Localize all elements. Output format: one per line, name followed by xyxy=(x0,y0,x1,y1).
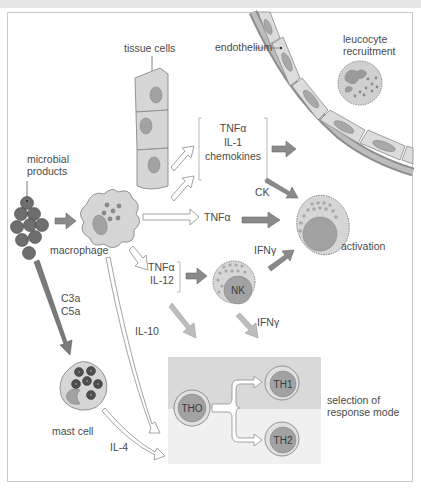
th2-label: TH2 xyxy=(274,435,293,446)
arrow-tnfa-il12-to-nk xyxy=(186,268,207,284)
th1-label: TH1 xyxy=(274,379,293,390)
ifng-selection-label: IFNγ xyxy=(257,316,280,328)
cytokine-tnfa: TNFα xyxy=(220,122,246,134)
cytokine-il1: IL-1 xyxy=(224,136,242,148)
c5a-label: C5a xyxy=(61,305,80,317)
arrow-ck xyxy=(265,178,298,198)
selection-label-line2: response mode xyxy=(327,406,400,418)
leucocyte-label-line1: leucocyte xyxy=(343,33,388,45)
macrophage-cell xyxy=(80,189,139,247)
tnfa-il12-label-line2: IL-12 xyxy=(150,274,174,286)
tnfa-il12-label-line1: TNFα xyxy=(148,261,174,273)
ifng-activation-label: IFNγ xyxy=(254,244,277,256)
leucocyte-cell xyxy=(338,61,382,105)
tissue-cells-label: tissue cells xyxy=(124,42,175,54)
macrophage-label: macrophage xyxy=(50,244,109,256)
cytokine-chemokines: chemokines xyxy=(205,150,261,162)
arrow-macrophage-to-tnfa-il12 xyxy=(129,246,148,270)
activation-label: activation xyxy=(341,240,386,252)
il4-label: IL-4 xyxy=(110,441,128,453)
arrow-macrophage-to-tissue-2 xyxy=(171,176,194,201)
th0-label: THO xyxy=(181,403,202,414)
arrow-tnfa-il12-to-selection xyxy=(169,303,196,338)
leucocyte-label-line2: recruitment xyxy=(343,45,396,57)
microbial-label-line2: products xyxy=(27,165,67,177)
arrow-macrophage-tnfa xyxy=(143,209,199,225)
arrow-tnfa-to-activation xyxy=(242,212,280,228)
mast-cell-label: mast cell xyxy=(52,425,93,437)
nk-cell xyxy=(213,261,255,304)
arrow-macrophage-to-tissue-1 xyxy=(171,146,194,171)
arrow-microbes-to-macrophage xyxy=(55,213,76,229)
selection-label-line1: selection of xyxy=(327,394,380,406)
il10-label: IL-10 xyxy=(135,325,159,337)
arrow-cytokines-to-endothelium xyxy=(272,141,296,157)
tnfa-label: TNFα xyxy=(204,211,230,223)
microbial-label-line1: microbial xyxy=(27,153,69,165)
nk-label: NK xyxy=(231,285,245,296)
mast-cell xyxy=(60,361,107,410)
c3a-label: C3a xyxy=(61,292,80,304)
immune-response-diagram: endothelium leucocyte recruitment tissue… xyxy=(0,0,421,489)
ck-label: CK xyxy=(255,186,270,198)
arrow-nk-ifng-to-selection xyxy=(236,313,258,338)
microbial-cluster xyxy=(11,197,49,260)
endothelium-label: endothelium xyxy=(215,41,272,53)
